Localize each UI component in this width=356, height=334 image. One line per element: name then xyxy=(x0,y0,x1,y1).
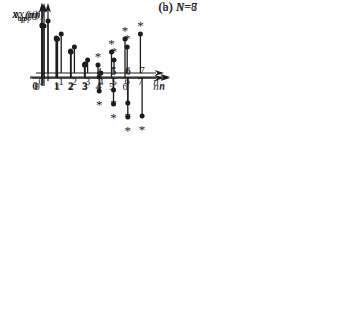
mirror-marker-n4: * xyxy=(96,97,103,112)
figure-periodic-even-odd-components: xep(n)n012345*6*7* xop(n)n012345*6*7* xe… xyxy=(0,0,356,334)
x-axis-label: n xyxy=(159,80,165,92)
tick-label-4: 4 xyxy=(97,66,103,77)
stem-dot-n4 xyxy=(97,89,102,94)
tick-label-6: 6 xyxy=(125,66,130,77)
stem-plot-container-xop-n7: xop(n)n01234*5*6* xyxy=(0,0,178,154)
stem-dot-n6 xyxy=(125,115,130,120)
tick-label-1: 1 xyxy=(54,81,59,92)
tick-label-5: 5 xyxy=(111,66,116,77)
caption-b: (b) N=7 xyxy=(0,0,356,15)
mirror-marker-n6: * xyxy=(125,123,132,138)
caption-b-value: =7 xyxy=(184,0,197,14)
tick-label-0: 0 xyxy=(32,81,37,92)
stem-plot-xop-n7: xop(n)n01234*5*6* xyxy=(0,0,178,150)
caption-b-prefix: (b) xyxy=(158,0,176,14)
stem-dot-n1 xyxy=(54,37,59,42)
tick-label-3: 3 xyxy=(82,81,87,92)
stem-dot-n5 xyxy=(111,102,116,107)
stem-dot-n0 xyxy=(40,24,45,29)
mirror-marker-n5: * xyxy=(110,110,117,125)
stem-dot-n3 xyxy=(82,63,87,68)
tick-label-2: 2 xyxy=(68,81,73,92)
stem-dot-n2 xyxy=(68,50,73,55)
